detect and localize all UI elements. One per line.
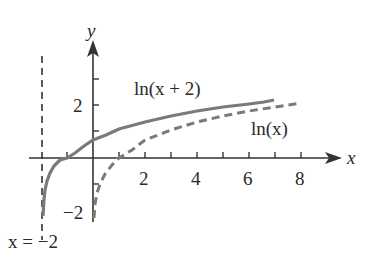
y-axis-label: y (87, 21, 95, 40)
x-tick-label-8: 8 (295, 169, 305, 188)
x-tick-label-4: 4 (191, 169, 201, 188)
x-tick-label-6: 6 (243, 169, 253, 188)
log-function-plot (0, 0, 367, 262)
annotation-ln-x-plus-2: ln(x + 2) (134, 79, 201, 98)
y-tick-label-2: 2 (73, 96, 83, 115)
y-tick-label-neg2: −2 (63, 203, 83, 222)
x-tick-label-2: 2 (139, 169, 149, 188)
x-axis-label: x (347, 148, 355, 167)
asymptote-label: x = −2 (8, 232, 58, 251)
x-ticks (67, 152, 301, 158)
y-ticks (93, 79, 99, 184)
annotation-ln-x: ln(x) (251, 119, 288, 138)
